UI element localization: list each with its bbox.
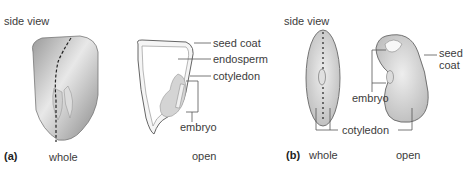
bean-whole-illustration	[306, 30, 340, 126]
panel-b-whole-label: whole	[309, 149, 338, 161]
label-seed-coat-a: seed coat	[213, 37, 261, 49]
label-endosperm: endosperm	[213, 53, 268, 65]
seed-diagram-graphics	[0, 0, 474, 171]
panel-a-open-label: open	[192, 150, 216, 162]
corn-kernel-whole-illustration	[32, 36, 98, 142]
corn-kernel-open-illustration	[138, 40, 194, 134]
label-cotyledon-a: cotyledon	[213, 70, 260, 82]
label-seed-coat-b-line1: seed	[439, 47, 463, 59]
panel-b-letter: (b)	[286, 149, 300, 161]
panel-b-open-label: open	[396, 149, 420, 161]
label-embryo-a: embryo	[180, 121, 217, 133]
label-embryo-b: embryo	[352, 92, 389, 104]
label-seed-coat-b-line2: coat	[439, 59, 460, 71]
bean-hilum	[319, 69, 326, 85]
label-cotyledon-b: cotyledon	[342, 124, 389, 136]
panel-a-whole-label: whole	[49, 151, 78, 163]
bean-open-illustration	[376, 35, 428, 123]
panel-a-side-view-label: side view	[4, 15, 49, 27]
panel-b-side-view-label: side view	[284, 15, 329, 27]
bean-embryo-axis	[387, 71, 394, 84]
panel-a-letter: (a)	[4, 150, 17, 162]
